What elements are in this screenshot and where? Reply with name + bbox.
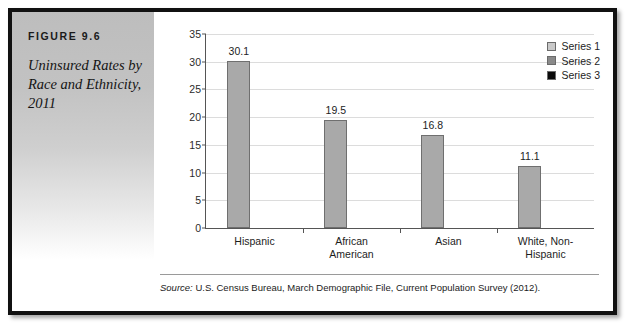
x-axis-label-line: Asian — [435, 235, 461, 247]
y-axis-label: 25 — [189, 83, 201, 95]
figure-number-label: FIGURE 9.6 — [28, 30, 142, 42]
source-block: Source: U.S. Census Bureau, March Demogr… — [160, 274, 599, 293]
source-note: Source: U.S. Census Bureau, March Demogr… — [160, 282, 599, 293]
y-axis-label: 30 — [189, 56, 201, 68]
x-axis-label-line: American — [329, 248, 373, 260]
bar-value-label: 11.1 — [520, 150, 540, 162]
x-axis-label-line: White, Non- — [518, 235, 573, 247]
x-axis-tick — [497, 228, 498, 233]
figure-inner-panel: FIGURE 9.6 Uninsured Rates by Race and E… — [12, 12, 613, 311]
x-axis-tick — [303, 228, 304, 233]
legend-swatch-icon — [547, 56, 556, 65]
legend-item: Series 1 — [547, 40, 600, 52]
chart-region: 0510152025303530.1Hispanic19.5AfricanAme… — [154, 12, 613, 263]
source-citation: U.S. Census Bureau, March Demographic Fi… — [193, 282, 540, 293]
y-axis-label: 20 — [189, 111, 201, 123]
y-axis-label: 15 — [189, 139, 201, 151]
bar-value-label: 30.1 — [229, 45, 249, 57]
legend-item: Series 3 — [547, 69, 600, 81]
bar-group: 16.8Asian — [400, 34, 497, 228]
legend-item: Series 2 — [547, 55, 600, 67]
x-axis-label-line: African — [335, 235, 368, 247]
figure-title: Uninsured Rates by Race and Ethnicity, 2… — [28, 56, 142, 113]
legend-swatch-icon — [547, 42, 556, 51]
y-axis-label: 0 — [195, 222, 201, 234]
chart-legend: Series 1Series 2Series 3 — [547, 40, 600, 84]
plot-wrapper: 0510152025303530.1Hispanic19.5AfricanAme… — [154, 34, 610, 242]
bar — [421, 135, 444, 228]
legend-label: Series 3 — [561, 69, 600, 81]
x-axis-label: White, Non-Hispanic — [497, 235, 594, 260]
figure-caption-panel: FIGURE 9.6 Uninsured Rates by Race and E… — [12, 12, 154, 259]
x-axis-label-line: Hispanic — [234, 235, 274, 247]
legend-label: Series 2 — [561, 55, 600, 67]
y-axis-label: 35 — [189, 28, 201, 40]
bar — [227, 61, 250, 228]
legend-label: Series 1 — [561, 40, 600, 52]
y-axis-label: 10 — [189, 167, 201, 179]
source-label: Source: — [160, 282, 193, 293]
bar-group: 30.1Hispanic — [206, 34, 303, 228]
bar-value-label: 16.8 — [423, 119, 443, 131]
x-axis-label: Hispanic — [206, 235, 303, 248]
x-axis-label-line: Hispanic — [525, 248, 565, 260]
figure-frame: FIGURE 9.6 Uninsured Rates by Race and E… — [8, 8, 617, 315]
y-axis-label: 5 — [195, 194, 201, 206]
x-axis-label: AfricanAmerican — [303, 235, 400, 260]
plot-area: 0510152025303530.1Hispanic19.5AfricanAme… — [205, 34, 594, 229]
legend-swatch-icon — [547, 71, 556, 80]
bar-group: 19.5AfricanAmerican — [303, 34, 400, 228]
bar — [324, 120, 347, 228]
x-axis-tick — [400, 228, 401, 233]
x-axis-label: Asian — [400, 235, 497, 248]
source-divider — [160, 274, 599, 275]
bar-value-label: 19.5 — [326, 104, 346, 116]
bar — [518, 166, 541, 228]
